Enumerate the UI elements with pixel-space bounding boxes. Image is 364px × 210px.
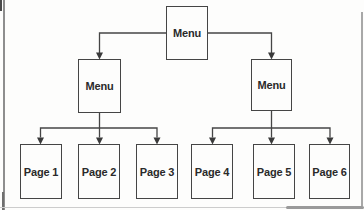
connector-root-to-right-menu: [208, 33, 272, 53]
node-page-4: Page 4: [191, 144, 233, 199]
node-page-5-label: Page 5: [257, 166, 291, 178]
node-page-4-label: Page 4: [195, 166, 229, 178]
node-menu-right-label: Menu: [258, 79, 286, 91]
node-menu-root: Menu: [166, 6, 208, 60]
node-menu-right: Menu: [251, 59, 292, 111]
node-menu-left: Menu: [78, 59, 121, 113]
node-page-3: Page 3: [136, 144, 178, 199]
diagram-canvas: Menu Menu Menu Page 1 Page 2 Page 3 Page…: [0, 0, 364, 210]
node-page-6: Page 6: [309, 144, 350, 199]
node-page-1-label: Page 1: [24, 166, 58, 178]
node-page-3-label: Page 3: [140, 166, 174, 178]
node-page-6-label: Page 6: [312, 166, 346, 178]
connector-root-to-left-menu: [100, 33, 167, 53]
node-page-5: Page 5: [253, 144, 295, 199]
connector-left-fanout: [41, 128, 158, 138]
node-page-2: Page 2: [78, 144, 120, 199]
node-menu-left-label: Menu: [86, 80, 114, 92]
node-page-2-label: Page 2: [82, 166, 116, 178]
node-menu-root-label: Menu: [173, 27, 201, 39]
node-page-1: Page 1: [20, 144, 62, 199]
